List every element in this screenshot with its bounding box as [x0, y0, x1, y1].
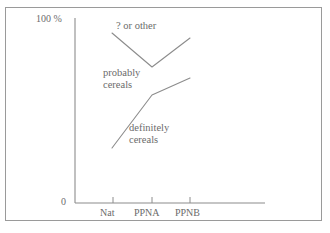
x-tick-label-ppna: PPNA [134, 207, 160, 218]
series-line-other [112, 33, 190, 67]
series-label-definitely-line2: cereals [129, 134, 169, 146]
series-label-definitely-line1: definitely [129, 122, 169, 134]
series-label-other: ? or other [116, 20, 156, 32]
y-axis-bottom-label: 0 [61, 196, 66, 207]
x-tick-label-ppnb: PPNB [175, 207, 200, 218]
series-label-probably-line2: cereals [103, 79, 140, 91]
y-axis-top-label: 100 % [36, 13, 62, 24]
x-tick-label-nat: Nat [100, 207, 114, 218]
series-label-probably-line1: probably [103, 67, 140, 79]
chart-plot-area [0, 0, 330, 233]
series-label-probably-cereals: probably cereals [103, 67, 140, 90]
series-label-definitely-cereals: definitely cereals [129, 122, 169, 145]
figure-canvas: 100 % 0 Nat PPNA PPNB ? or other probabl… [0, 0, 330, 233]
